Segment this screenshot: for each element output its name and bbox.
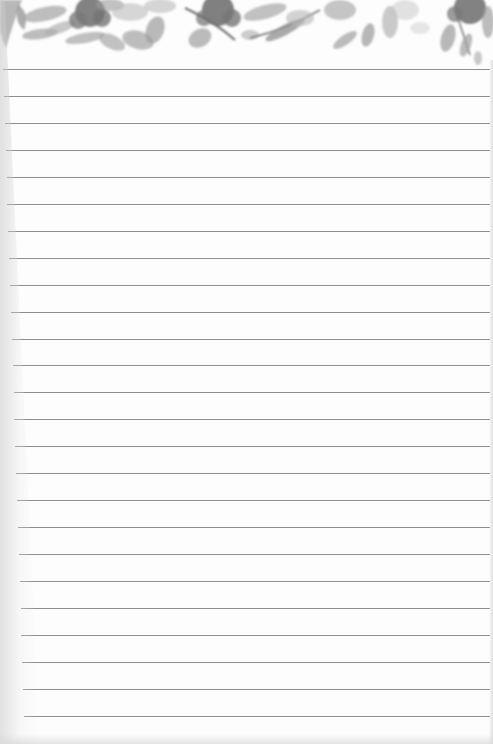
ruled-line [15,446,490,447]
ruled-line [11,312,490,313]
ruled-line [19,554,490,555]
ruled-line [7,204,490,205]
ruled-line [4,96,490,97]
ruled-line [18,527,490,528]
ruled-line [20,581,490,582]
ruled-line [7,177,490,178]
ruled-line [22,662,490,663]
ruled-line [17,500,490,501]
ruled-line [14,419,490,420]
ruled-line [21,608,490,609]
page-right-shadow [489,60,493,744]
ruled-line [10,285,490,286]
ruled-line [5,123,490,124]
ruled-line [8,231,490,232]
ruled-line [24,716,490,717]
ruled-line [14,392,490,393]
ruled-line [23,689,490,690]
page-bottom-shadow [0,734,493,744]
ruled-line [13,365,490,366]
ruled-line [6,150,490,151]
ruled-line [21,635,490,636]
notepaper-page [0,0,493,744]
floral-border-icon [0,0,493,66]
ruled-line [9,258,490,259]
page-left-shadow [0,0,40,744]
ruled-line [16,473,490,474]
ruled-line [3,69,490,70]
ruled-line [12,339,490,340]
